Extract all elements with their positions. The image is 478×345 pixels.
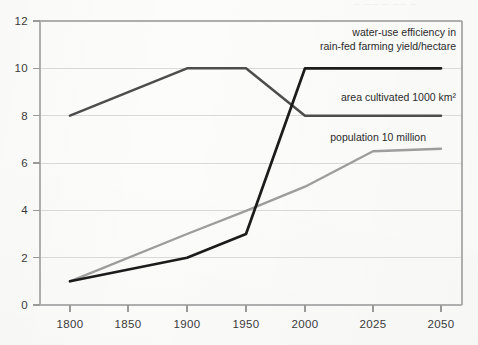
x-tick-label-1900: 1900: [174, 318, 201, 330]
series-line-population: [70, 149, 441, 281]
series-label-water-use-efficiency: water-use efficiency in rain-fed farming…: [320, 26, 456, 54]
series-label-water-use-efficiency-line2: rain-fed farming yield/hectare: [320, 40, 456, 54]
y-tick-label-2: 2: [4, 252, 28, 264]
x-tick-label-2050: 2050: [428, 318, 455, 330]
x-tick-label-2000: 2000: [292, 318, 319, 330]
y-axis-ticks: [33, 21, 40, 305]
x-axis-ticks: [70, 305, 441, 312]
y-tick-label-0: 0: [4, 299, 28, 311]
series-label-area-cultivated: area cultivated 1000 km²: [341, 91, 456, 104]
line-chart: 12 10 8 6 4 2 0 1800 1850 1900 1950 2000…: [0, 0, 478, 345]
series-label-water-use-efficiency-line1: water-use efficiency in: [320, 26, 456, 40]
y-tick-label-8: 8: [4, 110, 28, 122]
x-tick-label-1800: 1800: [57, 318, 84, 330]
y-tick-label-12: 12: [4, 15, 28, 27]
x-tick-label-2025: 2025: [360, 318, 387, 330]
x-tick-label-1850: 1850: [115, 318, 142, 330]
x-tick-label-1950: 1950: [233, 318, 260, 330]
y-tick-label-6: 6: [4, 157, 28, 169]
y-tick-label-4: 4: [4, 204, 28, 216]
series-label-population: population 10 million: [330, 131, 426, 144]
y-tick-label-10: 10: [4, 62, 28, 74]
